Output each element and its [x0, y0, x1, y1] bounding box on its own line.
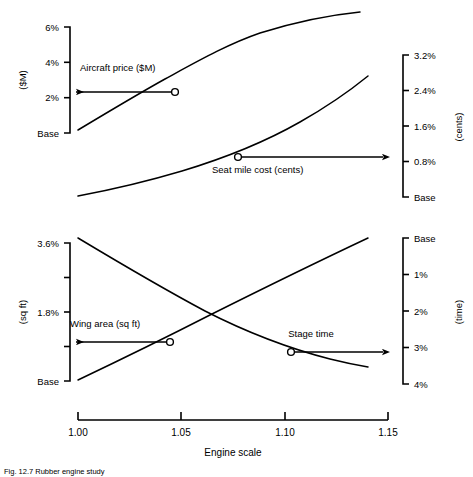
lower-left-tick-0: 3.6%: [37, 238, 59, 249]
annotation-seat-mile-cost: Seat mile cost (cents): [212, 154, 383, 175]
lower-left-tick-4: Base: [37, 376, 59, 387]
lower-left-axis-title: (sq ft): [17, 300, 28, 324]
x-tick-2: 1.10: [275, 427, 295, 438]
upper-right-axis-title: (cents): [453, 112, 464, 141]
upper-right-tick-4: Base: [414, 192, 436, 203]
lower-right-axis-title: (time): [453, 300, 464, 324]
upper-right-axis: 3.2% 2.4% 1.6% 0.8% Base (cents): [403, 50, 464, 203]
chart-svg: 6% 4% 2% Base ($M) 3.2% 2.4% 1.6% 0.8% B…: [0, 0, 473, 477]
label-wing-area: Wing area (sq ft): [70, 318, 140, 329]
marker-aircraft-price: [172, 89, 179, 96]
upper-right-tick-2: 1.6%: [414, 121, 436, 132]
marker-seat-mile-cost: [235, 154, 242, 161]
curve-stage-time: [78, 238, 368, 367]
lower-right-axis: Base 1% 2% 3% 4% (time): [403, 233, 464, 390]
label-seat-mile-cost: Seat mile cost (cents): [212, 164, 303, 175]
marker-stage-time: [288, 349, 295, 356]
upper-left-tick-3: Base: [37, 128, 59, 139]
upper-left-tick-1: 4%: [45, 57, 59, 68]
x-tick-3: 1.15: [378, 427, 398, 438]
curve-wing-area: [78, 238, 368, 380]
upper-left-axis-title: ($M): [17, 70, 28, 90]
x-tick-0: 1.00: [68, 427, 88, 438]
lower-right-tick-3: 3%: [414, 342, 428, 353]
figure-rubber-engine-study: 6% 4% 2% Base ($M) 3.2% 2.4% 1.6% 0.8% B…: [0, 0, 473, 477]
x-axis-title: Engine scale: [204, 447, 262, 458]
upper-right-tick-0: 3.2%: [414, 50, 436, 61]
x-axis: 1.00 1.05 1.10 1.15 Engine scale: [68, 412, 398, 458]
label-aircraft-price: Aircraft price ($M): [80, 62, 155, 73]
upper-right-tick-1: 2.4%: [414, 85, 436, 96]
upper-left-axis: 6% 4% 2% Base ($M): [17, 22, 70, 139]
figure-caption: Fig. 12.7 Rubber engine study: [4, 467, 105, 476]
label-stage-time: Stage time: [288, 328, 333, 339]
lower-right-tick-2: 2%: [414, 306, 428, 317]
curve-seat-mile-cost: [78, 76, 368, 196]
lower-left-axis: 3.6% 1.8% Base (sq ft): [17, 238, 70, 387]
upper-right-tick-3: 0.8%: [414, 156, 436, 167]
lower-right-tick-4: 4%: [414, 379, 428, 390]
annotation-aircraft-price: Aircraft price ($M): [76, 62, 178, 95]
marker-wing-area: [167, 339, 174, 346]
x-tick-1: 1.05: [171, 427, 191, 438]
upper-left-tick-0: 6%: [45, 22, 59, 33]
lower-right-tick-1: 1%: [414, 269, 428, 280]
upper-left-tick-2: 2%: [45, 92, 59, 103]
lower-left-tick-2: 1.8%: [37, 307, 59, 318]
lower-right-tick-0: Base: [414, 233, 436, 244]
